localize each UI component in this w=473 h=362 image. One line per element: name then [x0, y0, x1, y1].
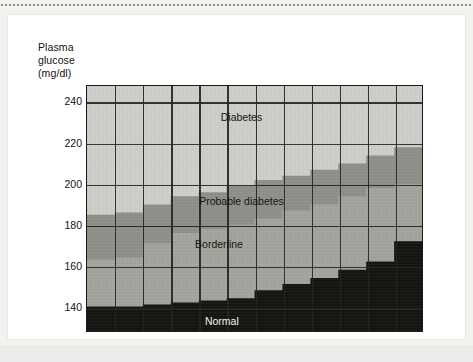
y-tick-label: 220: [38, 137, 82, 149]
gridline-horizontal: [87, 185, 422, 186]
gridline-vertical: [396, 86, 397, 331]
y-tick-label: 240: [38, 95, 82, 107]
y-tick-label: 180: [38, 219, 82, 231]
stepped-band-chart: [87, 86, 422, 331]
chart-bands: DiabetesProbable diabetesBorderlineNorma…: [87, 86, 422, 331]
figure-card: Plasma glucose (mg/dl) DiabetesProbable …: [8, 15, 465, 339]
y-axis-title: Plasma glucose (mg/dl): [38, 41, 75, 81]
gridline-vertical: [312, 86, 313, 331]
page-background: Plasma glucose (mg/dl) DiabetesProbable …: [0, 0, 473, 362]
gridline-vertical: [115, 86, 116, 331]
gridline-horizontal: [87, 308, 422, 309]
gridline-horizontal: [87, 144, 422, 145]
gridline-vertical: [199, 86, 200, 331]
y-tick-label: 200: [38, 178, 82, 190]
gridline-vertical: [256, 86, 257, 331]
gridline-vertical: [368, 86, 369, 331]
y-axis-ticks: 140160180200220240: [36, 85, 82, 332]
gridline-vertical: [143, 86, 144, 331]
page-bottom-band: [0, 345, 473, 362]
chart-plot-area: DiabetesProbable diabetesBorderlineNorma…: [86, 85, 423, 332]
y-tick-label: 160: [38, 260, 82, 272]
gridline-horizontal: [87, 102, 422, 103]
gridline-vertical: [340, 86, 341, 331]
gridline-vertical: [284, 86, 285, 331]
dotted-rule: [0, 3, 473, 7]
y-tick-label: 140: [38, 301, 82, 313]
gridline-vertical: [171, 86, 172, 331]
gridline-horizontal: [87, 267, 422, 268]
gridline-vertical: [227, 86, 228, 331]
gridline-horizontal: [87, 226, 422, 227]
